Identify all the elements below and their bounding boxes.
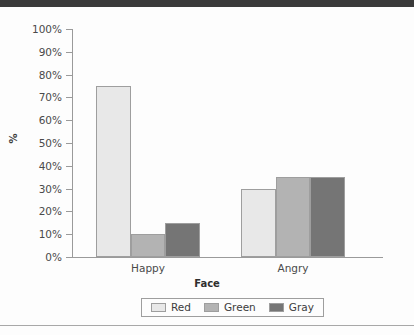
legend-entry-gray[interactable]: Gray bbox=[269, 302, 314, 313]
y-axis-tick-label: 70% bbox=[14, 92, 62, 102]
y-axis-tick-label: 30% bbox=[14, 184, 62, 194]
y-axis-title: % bbox=[8, 133, 19, 143]
y-axis-tick bbox=[66, 211, 72, 212]
bar-happy-gray bbox=[165, 223, 200, 257]
y-axis-tick bbox=[66, 97, 72, 98]
y-axis-tick bbox=[66, 29, 72, 30]
y-axis-tick-label: 40% bbox=[14, 161, 62, 171]
legend-label: Green bbox=[224, 302, 256, 313]
y-axis-tick-label: 20% bbox=[14, 206, 62, 216]
chart-legend: RedGreenGray bbox=[141, 298, 324, 317]
y-axis-tick-label: 90% bbox=[14, 47, 62, 57]
y-axis-tick bbox=[66, 143, 72, 144]
x-axis-tick-label: Angry bbox=[253, 262, 333, 274]
y-axis-tick bbox=[66, 257, 72, 258]
y-axis-tick bbox=[66, 166, 72, 167]
y-axis-tick-label: 50% bbox=[14, 138, 62, 148]
y-axis-tick-label: 60% bbox=[14, 115, 62, 125]
x-axis-line bbox=[72, 257, 383, 258]
plot-area: 100%90%80%70%60%50%40%30%20%10%0% % Happ… bbox=[0, 0, 414, 335]
y-axis-line bbox=[72, 29, 73, 258]
x-axis-title: Face bbox=[0, 278, 414, 289]
y-axis-tick bbox=[66, 120, 72, 121]
y-axis-tick bbox=[66, 234, 72, 235]
bar-happy-red bbox=[96, 86, 131, 257]
bar-happy-green bbox=[131, 234, 166, 257]
legend-entry-red[interactable]: Red bbox=[151, 302, 191, 313]
legend-swatch-red-icon bbox=[151, 303, 166, 312]
y-axis-tick-label: 80% bbox=[14, 70, 62, 80]
chart-figure: 100%90%80%70%60%50%40%30%20%10%0% % Happ… bbox=[0, 0, 414, 335]
bar-angry-red bbox=[241, 189, 276, 257]
y-axis-tick bbox=[66, 75, 72, 76]
y-axis-tick-label: 10% bbox=[14, 229, 62, 239]
y-axis-tick bbox=[66, 189, 72, 190]
legend-label: Gray bbox=[289, 302, 314, 313]
y-axis-tick bbox=[66, 52, 72, 53]
bar-angry-gray bbox=[310, 177, 345, 257]
bottom-rule-decoration bbox=[0, 325, 414, 326]
bar-angry-green bbox=[276, 177, 311, 257]
legend-swatch-green-icon bbox=[204, 303, 219, 312]
legend-swatch-gray-icon bbox=[269, 303, 284, 312]
y-axis-tick-label: 100% bbox=[14, 24, 62, 34]
legend-label: Red bbox=[171, 302, 191, 313]
x-axis-tick-label: Happy bbox=[108, 262, 188, 274]
y-axis-tick-label: 0% bbox=[14, 252, 62, 262]
legend-entry-green[interactable]: Green bbox=[204, 302, 256, 313]
